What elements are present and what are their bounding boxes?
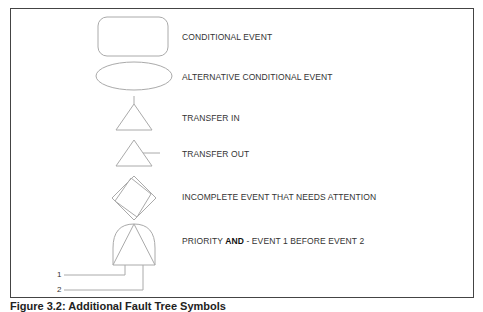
transfer-out-icon — [116, 140, 160, 166]
conditional-event-label: CONDITIONAL EVENT — [182, 32, 272, 42]
priority-and-gate-icon — [64, 224, 155, 290]
ellipse-icon — [96, 62, 172, 90]
input-1-label: 1 — [57, 270, 61, 279]
double-diamond-icon — [112, 176, 156, 220]
priority-and-label-prefix: PRIORITY — [182, 236, 225, 246]
transfer-out-label: TRANSFER OUT — [182, 149, 249, 159]
input-2-label: 2 — [57, 285, 61, 294]
priority-and-label-suffix: - EVENT 1 BEFORE EVENT 2 — [244, 236, 364, 246]
priority-and-label: PRIORITY AND - EVENT 1 BEFORE EVENT 2 — [182, 236, 364, 246]
transfer-in-icon — [116, 96, 152, 130]
figure-caption: Figure 3.2: Additional Fault Tree Symbol… — [10, 300, 226, 312]
priority-and-label-bold: AND — [225, 236, 244, 246]
rounded-rect-icon — [98, 17, 168, 56]
incomplete-event-label: INCOMPLETE EVENT THAT NEEDS ATTENTION — [182, 192, 376, 202]
transfer-in-label: TRANSFER IN — [182, 113, 240, 123]
alternative-conditional-event-label: ALTERNATIVE CONDITIONAL EVENT — [182, 72, 333, 82]
